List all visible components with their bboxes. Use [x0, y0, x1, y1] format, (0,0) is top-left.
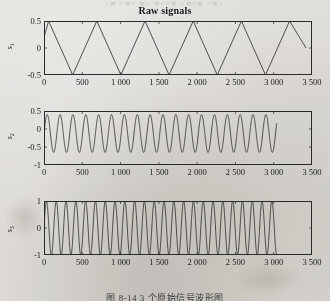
signal-trace-s2 [44, 111, 312, 165]
signal-trace-s1 [44, 21, 312, 75]
y-tick-s1-0: 0.5 [16, 16, 41, 26]
signal-trace-s3 [44, 201, 312, 255]
x-tick-s2-2: 1 000 [111, 167, 130, 177]
x-tick-s3-2: 1 000 [111, 257, 130, 267]
x-tick-s3-5: 2 500 [226, 257, 245, 267]
raw-signals-figure: Raw signals s1 0.5 0 -0.5 [0, 0, 330, 301]
x-tick-s2-7: 3 500 [302, 167, 321, 177]
x-tick-s1-7: 3 500 [302, 77, 321, 87]
y-axis-label-s3-sub: 3 [9, 226, 15, 229]
x-tick-s3-6: 3 000 [264, 257, 283, 267]
y-axis-label-s2-sub: 2 [9, 133, 15, 136]
y-tick-s3-2: -1 [11, 250, 41, 260]
x-tick-s1-4: 2 000 [188, 77, 207, 87]
x-tick-s1-3: 1 500 [149, 77, 168, 87]
y-axis-label-s3: s3 [5, 218, 16, 240]
x-tick-s2-6: 3 000 [264, 167, 283, 177]
y-axis-label-s1: s1 [5, 35, 16, 57]
x-tick-s1-2: 1 000 [111, 77, 130, 87]
x-tick-s2-3: 1 500 [149, 167, 168, 177]
y-axis-label-s1-base: s [5, 46, 14, 49]
x-tick-s1-0: 0 [42, 77, 46, 87]
y-axis-label-s2-base: s [5, 136, 14, 139]
x-tick-s3-1: 500 [76, 257, 89, 267]
x-tick-s3-7: 3 500 [302, 257, 321, 267]
x-tick-s3-3: 1 500 [149, 257, 168, 267]
y-axis-label-s1-sub: 1 [9, 43, 15, 46]
y-tick-s2-1: 0 [16, 124, 41, 134]
figure-caption: 图 8-14 3 个原始信号波形图 [0, 291, 330, 301]
y-tick-s2-2: -0.5 [11, 142, 41, 152]
x-tick-s3-0: 0 [42, 257, 46, 267]
y-tick-s2-3: -1 [11, 160, 41, 170]
x-tick-s1-5: 2 500 [226, 77, 245, 87]
x-tick-s2-0: 0 [42, 167, 46, 177]
x-tick-s2-1: 500 [76, 167, 89, 177]
x-tick-s3-4: 2 000 [188, 257, 207, 267]
figure-title: Raw signals [0, 5, 330, 16]
y-axis-label-s3-base: s [5, 229, 14, 232]
x-tick-s1-1: 500 [76, 77, 89, 87]
y-tick-s1-2: -0.5 [11, 70, 41, 80]
y-tick-s2-0: 0.5 [16, 106, 41, 116]
x-tick-s2-5: 2 500 [226, 167, 245, 177]
y-tick-s1-1: 0 [16, 43, 41, 53]
x-tick-s1-6: 3 000 [264, 77, 283, 87]
x-tick-s2-4: 2 000 [188, 167, 207, 177]
y-tick-s3-0: 1 [16, 196, 41, 206]
y-tick-s3-1: 0 [16, 223, 41, 233]
